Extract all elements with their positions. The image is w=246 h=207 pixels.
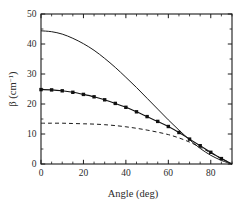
- series-marker-middle-squares: [124, 106, 127, 109]
- y-tick-label: 50: [27, 9, 37, 19]
- x-tick-label: 0: [39, 168, 44, 178]
- series-marker-middle-squares: [198, 144, 201, 147]
- chart-plot: 020406080 01020304050 Angle (deg) β (cm−…: [0, 0, 246, 207]
- series-marker-middle-squares: [177, 131, 180, 134]
- y-tick-label: 0: [32, 159, 37, 169]
- series-marker-middle-squares: [61, 89, 64, 92]
- y-tick-label: 10: [27, 129, 37, 139]
- x-axis-title: Angle (deg): [108, 188, 159, 200]
- series-marker-middle-squares: [82, 93, 85, 96]
- data-series-group: [41, 31, 232, 164]
- series-marker-middle-squares: [188, 137, 191, 140]
- y-axis-title: β (cm−1): [7, 71, 20, 107]
- x-tick-label: 40: [121, 168, 131, 178]
- x-tick-label: 20: [79, 168, 89, 178]
- figure-container: 020406080 01020304050 Angle (deg) β (cm−…: [0, 0, 246, 207]
- series-marker-middle-squares: [39, 88, 42, 91]
- svg-text:β (cm−1): β (cm−1): [7, 71, 20, 107]
- y-tick-label: 30: [27, 69, 37, 79]
- series-marker-middle-squares: [71, 91, 74, 94]
- y-axis-unit-base: (cm: [7, 82, 19, 101]
- series-marker-middle-squares: [209, 151, 212, 154]
- data-markers-group: [39, 88, 223, 160]
- series-marker-middle-squares: [103, 98, 106, 101]
- x-tick-labels: 020406080: [39, 168, 216, 178]
- series-marker-middle-squares: [167, 125, 170, 128]
- y-tick-label: 40: [27, 39, 37, 49]
- x-tick-label: 80: [206, 168, 216, 178]
- series-marker-middle-squares: [220, 157, 223, 160]
- series-marker-middle-squares: [156, 120, 159, 123]
- series-marker-middle-squares: [92, 95, 95, 98]
- series-line-middle-squares: [41, 90, 232, 164]
- series-line-lower-dashed: [41, 123, 232, 164]
- series-marker-middle-squares: [135, 110, 138, 113]
- series-marker-middle-squares: [114, 102, 117, 105]
- y-axis-unit-close: ): [7, 71, 19, 75]
- y-tick-label: 20: [27, 99, 37, 109]
- series-line-upper-solid: [41, 31, 232, 164]
- y-tick-labels: 01020304050: [27, 9, 37, 169]
- series-marker-middle-squares: [145, 115, 148, 118]
- x-tick-label: 60: [164, 168, 174, 178]
- series-marker-middle-squares: [50, 88, 53, 91]
